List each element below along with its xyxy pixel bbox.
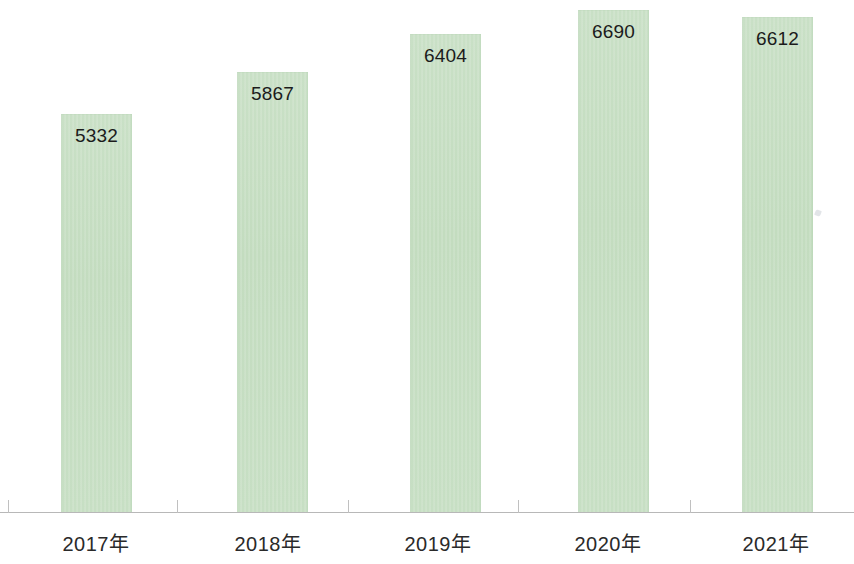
bar-group-2020[interactable]: 6690 [578,10,649,513]
x-axis-category-labels: 2017年 2018年 2019年 2020年 2021年 [0,527,854,564]
x-axis-label-2017: 2017年 [26,527,166,561]
bar-group-2021[interactable]: 6612 [742,17,813,513]
bar-2021[interactable] [742,17,813,513]
x-axis-tick [690,500,691,513]
x-axis-tick [8,500,9,513]
bar-chart: 5332 5867 6404 6690 6612 2017年 2018年 [0,0,854,564]
x-axis-tick [518,500,519,513]
bar-group-2019[interactable]: 6404 [410,34,481,513]
bar-2017[interactable] [61,114,132,513]
x-axis-tick [348,500,349,513]
bar-value-label-2019: 6404 [410,46,481,65]
bar-2019[interactable] [410,34,481,513]
bar-value-label-2018: 5867 [237,84,308,103]
x-axis-label-2019: 2019年 [368,527,508,561]
bar-2020[interactable] [578,10,649,513]
bar-value-label-2017: 5332 [61,126,132,145]
bar-group-2017[interactable]: 5332 [61,114,132,513]
bar-value-label-2020: 6690 [578,22,649,41]
plot-area: 5332 5867 6404 6690 6612 [0,0,854,513]
x-axis-label-2018: 2018年 [198,527,338,561]
x-axis-tick [177,500,178,513]
x-axis-label-2021: 2021年 [706,527,846,561]
bar-group-2018[interactable]: 5867 [237,72,308,513]
x-axis-label-2020: 2020年 [538,527,678,561]
x-axis-line [0,512,854,513]
bar-value-label-2021: 6612 [742,29,813,48]
bar-2018[interactable] [237,72,308,513]
